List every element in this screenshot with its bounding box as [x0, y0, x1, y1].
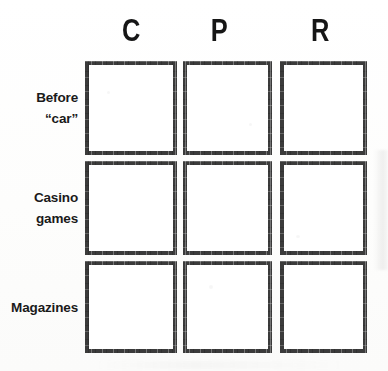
response-box-magazines-r[interactable]: [280, 261, 367, 353]
response-box-before-car-r[interactable]: [280, 61, 367, 155]
row-label-before-car: Before “car”: [0, 87, 78, 129]
row-label-casino-games-line1: Casino: [34, 190, 78, 205]
border-texture: [85, 61, 177, 155]
scan-bottom-smudge: [95, 361, 345, 369]
scan-speck: [296, 235, 300, 238]
response-box-before-car-c[interactable]: [85, 61, 177, 155]
border-texture: [280, 161, 367, 255]
column-header-p: P: [203, 14, 236, 48]
scan-edge-smudge: [374, 150, 388, 270]
border-texture: [85, 161, 177, 255]
scan-speck: [249, 123, 252, 126]
scan-speck: [209, 285, 213, 289]
border-texture: [85, 261, 177, 353]
row-label-magazines: Magazines: [0, 297, 78, 318]
figure-root: C P R Before “car” Casino games Magazine…: [0, 0, 388, 371]
response-box-casino-games-c[interactable]: [85, 161, 177, 255]
scan-speck: [107, 91, 110, 94]
row-label-before-car-line2: “car”: [0, 108, 78, 129]
response-box-casino-games-r[interactable]: [280, 161, 367, 255]
row-label-magazines-line1: Magazines: [11, 300, 78, 315]
border-texture: [183, 61, 272, 155]
border-texture: [183, 161, 272, 255]
response-box-before-car-p[interactable]: [183, 61, 272, 155]
row-label-casino-games-line2: games: [0, 208, 78, 229]
row-label-casino-games: Casino games: [0, 187, 78, 229]
response-box-casino-games-p[interactable]: [183, 161, 272, 255]
border-texture: [280, 261, 367, 353]
border-texture: [280, 61, 367, 155]
row-label-before-car-line1: Before: [36, 90, 78, 105]
border-texture: [183, 261, 272, 353]
column-header-c: C: [115, 14, 148, 48]
response-box-magazines-p[interactable]: [183, 261, 272, 353]
column-header-r: R: [304, 14, 337, 48]
response-box-magazines-c[interactable]: [85, 261, 177, 353]
